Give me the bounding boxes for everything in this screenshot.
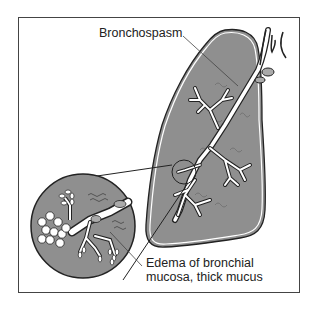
bronchospasm-label: Bronchospasm	[99, 26, 182, 40]
edema-label-line1: Edema of bronchial	[146, 256, 263, 270]
illustration: Bronchospasm Edema of bronchial mucosa, …	[0, 0, 314, 312]
lung	[146, 30, 265, 248]
edema-label-line2: mucosa, thick mucus	[146, 270, 263, 284]
edema-label: Edema of bronchial mucosa, thick mucus	[146, 256, 263, 284]
magnified-view	[31, 174, 135, 278]
